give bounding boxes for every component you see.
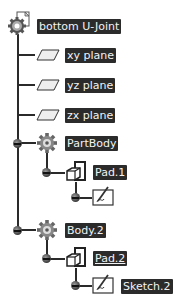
branch-line — [18, 84, 35, 86]
tree-item-label: zx plane — [65, 108, 115, 123]
sketch-icon — [92, 274, 114, 294]
tree-item-label: Pad.1 — [93, 165, 127, 180]
tree-item-label: yz plane — [65, 78, 115, 93]
branch-line — [18, 114, 35, 116]
sketch-icon — [92, 186, 114, 206]
body-gear-icon — [36, 132, 58, 154]
tree-item-label: PartBody — [65, 136, 118, 151]
collapse-node[interactable] — [13, 139, 22, 148]
plane-icon — [36, 49, 60, 61]
branch-line — [18, 54, 35, 56]
collapse-node[interactable] — [42, 168, 51, 177]
tree-item-label: Sketch.2 — [121, 279, 173, 294]
body-gear-icon — [36, 219, 58, 241]
pad-icon — [64, 246, 88, 270]
collapse-node[interactable] — [13, 226, 22, 235]
collapse-node[interactable] — [71, 193, 80, 202]
tree-item-label: bottom U-Joint — [37, 19, 121, 34]
plane-icon — [36, 79, 60, 91]
part-gear-icon — [6, 10, 32, 36]
pad-icon — [64, 160, 88, 184]
tree-trunk-line — [17, 34, 19, 234]
plane-icon — [36, 109, 60, 121]
tree-item-label: Pad.2 — [93, 251, 127, 266]
tree-item-label: xy plane — [65, 48, 116, 63]
collapse-node[interactable] — [71, 281, 80, 290]
collapse-node[interactable] — [42, 254, 51, 263]
tree-item-label: Body.2 — [65, 223, 106, 238]
